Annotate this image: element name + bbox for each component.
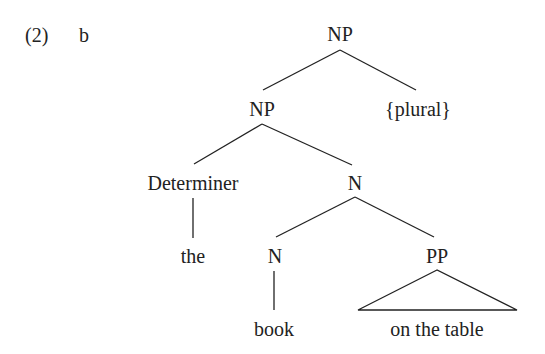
node-root-np: NP [327,24,353,44]
tree-branches [0,0,545,354]
node-n: N [268,246,282,266]
node-n-bar: N [348,173,362,193]
node-np: NP [249,99,275,119]
branch-nbar-n [276,197,355,237]
node-pp: PP [426,246,448,266]
branch-np-determiner [194,124,262,164]
leaf-book: book [254,319,294,339]
node-plural: {plural} [385,99,451,119]
node-determiner: Determiner [147,173,238,193]
branch-root-plural [340,50,416,90]
leaf-pp-text: on the table [390,319,483,339]
pp-triangle [358,270,517,310]
branch-root-np [263,50,340,90]
branch-nbar-pp [355,197,434,237]
leaf-the: the [181,246,205,266]
branch-np-nbar [262,124,352,165]
